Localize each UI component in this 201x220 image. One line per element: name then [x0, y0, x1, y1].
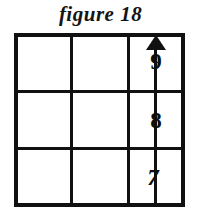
grid-line-horizontal-bottom — [14, 203, 185, 207]
arrow-label-middle: 8 — [142, 109, 170, 132]
arrow-head-icon — [146, 35, 166, 50]
grid-line-horizontal-top — [14, 33, 185, 37]
grid-line-vertical-2 — [127, 33, 130, 207]
arrow-label-bottom: 7 — [139, 166, 167, 189]
grid-line-vertical-right — [181, 33, 185, 207]
grid-line-horizontal-1 — [14, 90, 185, 93]
grid-line-vertical-left — [14, 33, 18, 207]
figure-container: figure 18 9 8 7 — [0, 0, 201, 220]
grid-line-horizontal-2 — [14, 147, 185, 150]
three-by-three-grid: 9 8 7 — [14, 33, 185, 207]
grid-line-vertical-1 — [70, 33, 73, 207]
arrow-label-top: 9 — [142, 50, 170, 73]
figure-caption: figure 18 — [0, 1, 201, 27]
